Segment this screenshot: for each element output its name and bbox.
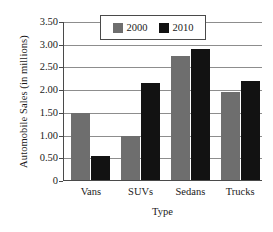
y-axis-tick-label: 1.50 [26, 108, 58, 118]
legend-label-2000: 2000 [127, 22, 148, 33]
y-axis-tick-label: 2.00 [26, 85, 58, 95]
y-axis-tick-label: 1.00 [26, 131, 58, 141]
x-axis-line [63, 180, 262, 181]
legend-label-2010: 2010 [173, 22, 194, 33]
bar-chart: Automobile Sales (in millions) 00.501.00… [0, 0, 273, 232]
x-axis-title: Type [63, 206, 262, 217]
y-axis-tick-label: 3.50 [26, 17, 58, 27]
bars-layer [63, 22, 262, 181]
bar-group-trucks [221, 22, 260, 181]
bar-trucks-2010 [241, 81, 260, 181]
y-axis-tick-label: 0 [26, 176, 58, 186]
legend-swatch-2010 [159, 23, 169, 33]
plot-area [63, 22, 262, 181]
bar-suvs-2000 [121, 136, 140, 181]
bar-group-suvs [121, 22, 160, 181]
y-axis-line [63, 22, 64, 181]
bar-suvs-2010 [141, 83, 160, 181]
y-axis-tick-label: 3.00 [26, 40, 58, 50]
y-axis-tick-labels: 00.501.001.502.002.503.003.50 [26, 0, 58, 232]
bar-sedans-2000 [171, 56, 190, 181]
x-axis-tick-labels: VansSUVsSedansTrucks [63, 186, 262, 202]
legend-entry-2010: 2010 [159, 22, 194, 33]
bar-sedans-2010 [191, 49, 210, 181]
bar-vans-2000 [71, 113, 90, 181]
y-axis-tick-label: 0.50 [26, 153, 58, 163]
bar-group-vans [71, 22, 110, 181]
y-axis-tick-label: 2.50 [26, 62, 58, 72]
legend-entry-2000: 2000 [113, 22, 148, 33]
chart-legend: 20002010 [100, 15, 206, 40]
bar-group-sedans [171, 22, 210, 181]
x-axis-tick-label: Trucks [210, 186, 270, 198]
legend-swatch-2000 [113, 23, 123, 33]
bar-vans-2010 [91, 156, 110, 181]
bar-trucks-2000 [221, 92, 240, 181]
y-axis-tick [59, 181, 63, 182]
